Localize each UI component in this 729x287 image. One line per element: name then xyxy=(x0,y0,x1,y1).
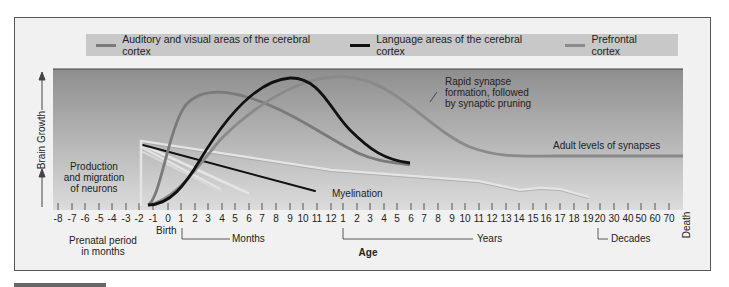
x-tick-label: -3 xyxy=(122,213,131,224)
x-tick-label: 40 xyxy=(622,213,634,224)
years-label: Years xyxy=(477,233,502,244)
x-tick-label: 10 xyxy=(459,213,471,224)
chart-svg: Brain Growth Production and migration of… xyxy=(0,0,729,287)
annotation-synapse-2: formation, followed xyxy=(445,87,529,98)
decades-label: Decades xyxy=(611,233,650,244)
x-tick-label: 12 xyxy=(325,213,337,224)
x-tick-label: -6 xyxy=(81,213,90,224)
annotation-production-3: of neurons xyxy=(70,183,117,194)
x-tick-label: 17 xyxy=(554,213,566,224)
x-tick-label: 7 xyxy=(259,213,265,224)
x-tick-label: 9 xyxy=(287,213,293,224)
x-tick-label: 5 xyxy=(232,213,238,224)
x-axis-label: Age xyxy=(359,247,378,258)
x-tick-label: 8 xyxy=(273,213,279,224)
x-tick-label: -8 xyxy=(54,213,63,224)
x-tick-label: 4 xyxy=(381,213,387,224)
y-axis-label: Brain Growth xyxy=(36,111,47,169)
death-label: Death xyxy=(681,212,692,239)
x-tick-label: 16 xyxy=(540,213,552,224)
annotation-synapse-3: by synaptic pruning xyxy=(445,98,531,109)
prenatal-label-1: Prenatal period xyxy=(69,235,137,246)
x-tick-label: 10 xyxy=(297,213,309,224)
annotation-synapse-1: Rapid synapse xyxy=(445,76,512,87)
x-tick-label: 18 xyxy=(568,213,580,224)
x-tick-label: 20 xyxy=(594,213,606,224)
x-tick-label: -1 xyxy=(149,213,158,224)
x-tick-label: 50 xyxy=(635,213,647,224)
x-tick-label: -5 xyxy=(95,213,104,224)
annotation-adult-levels: Adult levels of synapses xyxy=(553,140,660,151)
x-tick-label: 6 xyxy=(408,213,414,224)
x-tick-label: 60 xyxy=(649,213,661,224)
x-tick-label: -2 xyxy=(135,213,144,224)
x-tick-label: 14 xyxy=(513,213,525,224)
x-tick-label: 6 xyxy=(246,213,252,224)
x-tick-label: 1 xyxy=(178,213,184,224)
x-tick-label: 8 xyxy=(435,213,441,224)
x-tick-label: 7 xyxy=(421,213,427,224)
x-tick-label: 12 xyxy=(486,213,498,224)
x-tick-label: 2 xyxy=(192,213,198,224)
caption-bar xyxy=(14,283,106,287)
x-tick-label: 1 xyxy=(340,213,346,224)
x-tick-label: 3 xyxy=(367,213,373,224)
x-tick-label: 70 xyxy=(663,213,675,224)
months-label: Months xyxy=(232,233,265,244)
x-tick-label: 3 xyxy=(205,213,211,224)
x-tick-label: 9 xyxy=(449,213,455,224)
annotation-production-2: and migration xyxy=(64,172,125,183)
annotation-production-1: Production xyxy=(70,161,118,172)
x-tick-label: 13 xyxy=(500,213,512,224)
x-tick-label: -4 xyxy=(108,213,117,224)
x-tick-label: -7 xyxy=(68,213,77,224)
x-tick-label: 30 xyxy=(608,213,620,224)
x-tick-label: 5 xyxy=(394,213,400,224)
x-tick-labels: -8-7-6-5-4-3-2-1012345678910111212345678… xyxy=(54,213,675,224)
prenatal-label-2: in months xyxy=(81,246,124,257)
x-tick-label: 2 xyxy=(354,213,360,224)
x-tick-label: 15 xyxy=(527,213,539,224)
annotation-myelination: Myelination xyxy=(332,188,383,199)
x-tick-label: 11 xyxy=(312,213,323,224)
x-tick-label: 11 xyxy=(474,213,485,224)
x-tick-label: 0 xyxy=(165,213,171,224)
birth-label: Birth xyxy=(156,225,177,236)
x-tick-label: 4 xyxy=(219,213,225,224)
x-tick-label: 19 xyxy=(582,213,594,224)
